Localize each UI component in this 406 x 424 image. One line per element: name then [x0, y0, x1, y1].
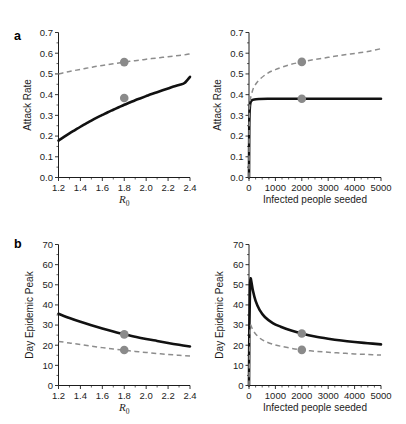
- x-tick-label: 1.6: [96, 390, 109, 401]
- y-tick-label: 20: [42, 340, 53, 351]
- figure-background: [0, 0, 406, 424]
- y-tick-label: 0.6: [230, 48, 243, 59]
- y-tick-label: 0.3: [40, 110, 53, 121]
- y-tick-label: 0.5: [230, 68, 243, 79]
- y-tick-label: 0.5: [40, 68, 53, 79]
- x-tick-label: 2.0: [140, 182, 153, 193]
- y-tick-label: 30: [233, 319, 244, 330]
- x-axis-title: Infected people seeded: [263, 402, 367, 413]
- x-tick-label: 3000: [318, 390, 339, 401]
- x-tick-label: 4000: [344, 390, 365, 401]
- y-axis-title: Day Epidemic Peak: [214, 270, 225, 358]
- y-tick-label: 0.0: [230, 172, 243, 183]
- x-tick-label: 1000: [265, 182, 286, 193]
- y-tick-label: 10: [233, 360, 244, 371]
- figure-svg: a b 0.00.10.20.30.40.50.60.71.21.41.61.8…: [0, 0, 406, 424]
- x-tick-label: 1.8: [118, 390, 131, 401]
- x-axis-title-subscript: 0: [126, 407, 130, 416]
- highlight-marker: [298, 329, 307, 338]
- x-tick-label: 0: [246, 390, 251, 401]
- x-tick-label: 4000: [344, 182, 365, 193]
- x-tick-label: 5000: [370, 390, 391, 401]
- y-tick-label: 0.4: [230, 89, 243, 100]
- highlight-marker: [120, 58, 129, 67]
- x-tick-label: 1.2: [52, 390, 65, 401]
- caption-remnant: [2, 414, 4, 423]
- x-tick-label: 2000: [291, 390, 312, 401]
- highlight-marker: [120, 94, 129, 103]
- y-tick-label: 10: [42, 360, 53, 371]
- x-tick-label: 1.6: [96, 182, 109, 193]
- x-tick-label: 3000: [318, 182, 339, 193]
- y-tick-label: 0.7: [230, 27, 243, 38]
- y-tick-label: 0.7: [40, 27, 53, 38]
- x-tick-label: 1.4: [74, 390, 87, 401]
- x-axis-title-subscript: 0: [126, 199, 130, 208]
- highlight-marker: [298, 94, 307, 103]
- x-tick-label: 0: [246, 182, 251, 193]
- highlight-marker: [298, 346, 307, 355]
- y-tick-label: 40: [233, 299, 244, 310]
- y-axis-title: Attack Rate: [22, 79, 33, 131]
- y-tick-label: 60: [42, 259, 53, 270]
- x-tick-label: 2.0: [140, 390, 153, 401]
- y-tick-label: 50: [233, 279, 244, 290]
- y-axis-title: Attack Rate: [212, 79, 223, 131]
- y-tick-label: 60: [233, 259, 244, 270]
- y-tick-label: 70: [42, 239, 53, 250]
- highlight-marker: [120, 346, 129, 355]
- x-axis-title: Infected people seeded: [263, 194, 367, 205]
- y-tick-label: 20: [233, 340, 244, 351]
- y-tick-label: 0.3: [230, 110, 243, 121]
- x-tick-label: 2000: [291, 182, 312, 193]
- x-tick-label: 1.2: [52, 182, 65, 193]
- y-tick-label: 40: [42, 299, 53, 310]
- y-tick-label: 70: [233, 239, 244, 250]
- y-tick-label: 0: [238, 380, 243, 391]
- figure-container: a b 0.00.10.20.30.40.50.60.71.21.41.61.8…: [0, 0, 406, 424]
- x-tick-label: 2.2: [161, 182, 174, 193]
- x-tick-label: 2.4: [183, 182, 196, 193]
- x-tick-label: 1000: [265, 390, 286, 401]
- y-tick-label: 0.1: [230, 151, 243, 162]
- panel-letter-b: b: [14, 237, 22, 251]
- y-axis-title: Day Epidemic Peak: [24, 270, 35, 358]
- x-tick-label: 2.2: [161, 390, 174, 401]
- highlight-marker: [298, 58, 307, 67]
- y-tick-label: 0.2: [40, 130, 53, 141]
- y-tick-label: 0.2: [230, 130, 243, 141]
- x-tick-label: 5000: [370, 182, 391, 193]
- x-tick-label: 1.8: [118, 182, 131, 193]
- y-tick-label: 50: [42, 279, 53, 290]
- highlight-marker: [120, 330, 129, 339]
- y-tick-label: 0.6: [40, 48, 53, 59]
- y-tick-label: 0.1: [40, 151, 53, 162]
- x-tick-label: 2.4: [183, 390, 196, 401]
- panel-letter-a: a: [14, 29, 22, 43]
- y-tick-label: 30: [42, 319, 53, 330]
- y-tick-label: 0.4: [40, 89, 53, 100]
- x-tick-label: 1.4: [74, 182, 87, 193]
